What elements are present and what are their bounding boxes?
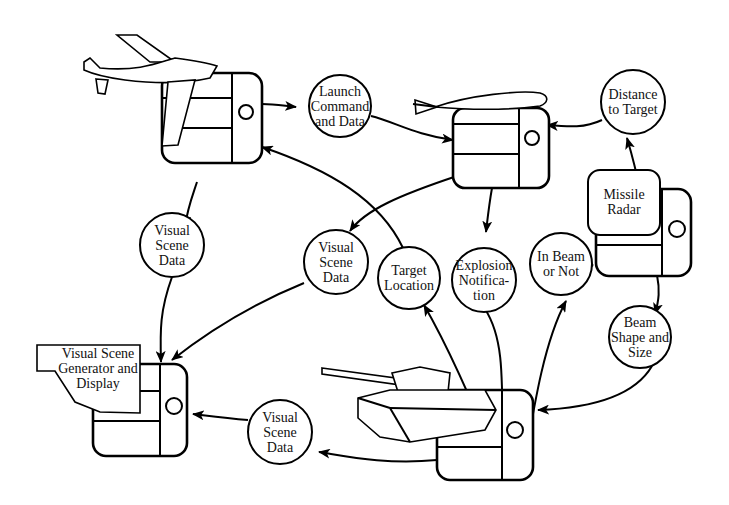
simulator-radar bbox=[588, 170, 691, 276]
diagram-canvas bbox=[0, 0, 729, 505]
node-target-location: Target Location bbox=[384, 263, 434, 293]
node-explosion-notification: Explosion Notifica- tion bbox=[456, 258, 513, 303]
label-visual-scene-generator: Visual Scene Generator and Display bbox=[58, 346, 138, 391]
node-beam-shape-size: Beam Shape and Size bbox=[611, 315, 669, 360]
node-visual-scene-data-missile: Visual Scene Data bbox=[318, 240, 354, 285]
node-visual-scene-data-aircraft: Visual Scene Data bbox=[154, 223, 190, 268]
node-in-beam-or-not: In Beam or Not bbox=[537, 249, 585, 279]
tank-icon bbox=[322, 367, 496, 442]
node-distance-to-target: Distance to Target bbox=[608, 87, 657, 117]
simulator-aircraft bbox=[84, 35, 262, 163]
node-visual-scene-data-tank: Visual Scene Data bbox=[262, 410, 298, 455]
node-launch-command: Launch Command and Data bbox=[311, 84, 369, 129]
label-missile-radar: Missile Radar bbox=[603, 187, 644, 217]
simulator-missile bbox=[413, 92, 549, 188]
